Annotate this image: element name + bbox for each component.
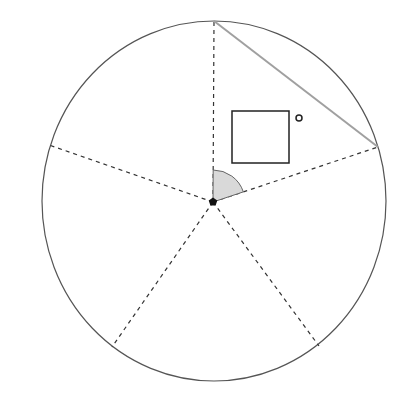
dashed-radius bbox=[49, 145, 213, 202]
chord-line bbox=[214, 21, 378, 147]
dashed-radius bbox=[112, 202, 213, 347]
angle-wedge bbox=[213, 170, 243, 202]
square bbox=[232, 111, 289, 163]
geometry-diagram bbox=[0, 0, 413, 408]
small-circle bbox=[296, 115, 302, 121]
dashed-radius bbox=[213, 202, 319, 346]
